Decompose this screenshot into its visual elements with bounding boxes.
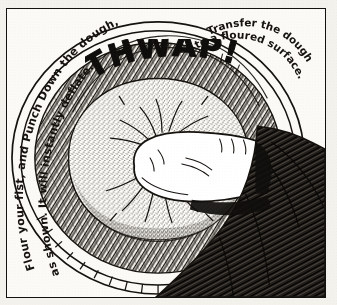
illustration-panel: Flour your fist, and Punch Down the doug… xyxy=(0,0,337,305)
caption-left-line1: Flour your fist, and Punch Down the doug… xyxy=(13,15,121,272)
captions-layer: Flour your fist, and Punch Down the doug… xyxy=(7,9,325,297)
panel-frame: Flour your fist, and Punch Down the doug… xyxy=(6,8,326,298)
